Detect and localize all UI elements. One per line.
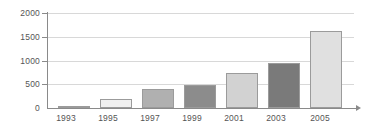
y-tick-label-1000: 1000 <box>0 57 40 66</box>
bar-2005 <box>310 31 342 108</box>
gridline-1000 <box>48 61 354 62</box>
bar-1993 <box>58 106 90 108</box>
bar-1999 <box>184 85 216 108</box>
y-axis-labels: 2000 1500 1000 500 0 <box>0 0 40 134</box>
x-tick-label-1999: 1999 <box>168 113 216 123</box>
y-tick-label-2000: 2000 <box>0 9 40 18</box>
x-tick-label-1995: 1995 <box>84 113 132 123</box>
y-tick-label-0: 0 <box>0 104 40 113</box>
bar-chart: 2000 1500 1000 500 0 1993 1995 1997 1999… <box>0 0 370 134</box>
bar-1995 <box>100 99 132 109</box>
x-axis-line <box>47 108 359 109</box>
bar-1997 <box>142 89 174 108</box>
gridline-2000 <box>48 13 354 14</box>
y-tick-label-500: 500 <box>0 80 40 89</box>
x-axis-arrow-icon <box>356 105 361 111</box>
y-tick-label-1500: 1500 <box>0 33 40 42</box>
bar-2001 <box>226 73 258 108</box>
x-tick-label-1993: 1993 <box>42 113 90 123</box>
x-tick-label-2005: 2005 <box>296 113 344 123</box>
x-tick-label-1997: 1997 <box>126 113 174 123</box>
x-tick-label-2001: 2001 <box>210 113 258 123</box>
plot-area <box>48 13 354 108</box>
gridline-1500 <box>48 37 354 38</box>
x-tick-label-2003: 2003 <box>252 113 300 123</box>
bar-2003 <box>268 63 300 108</box>
